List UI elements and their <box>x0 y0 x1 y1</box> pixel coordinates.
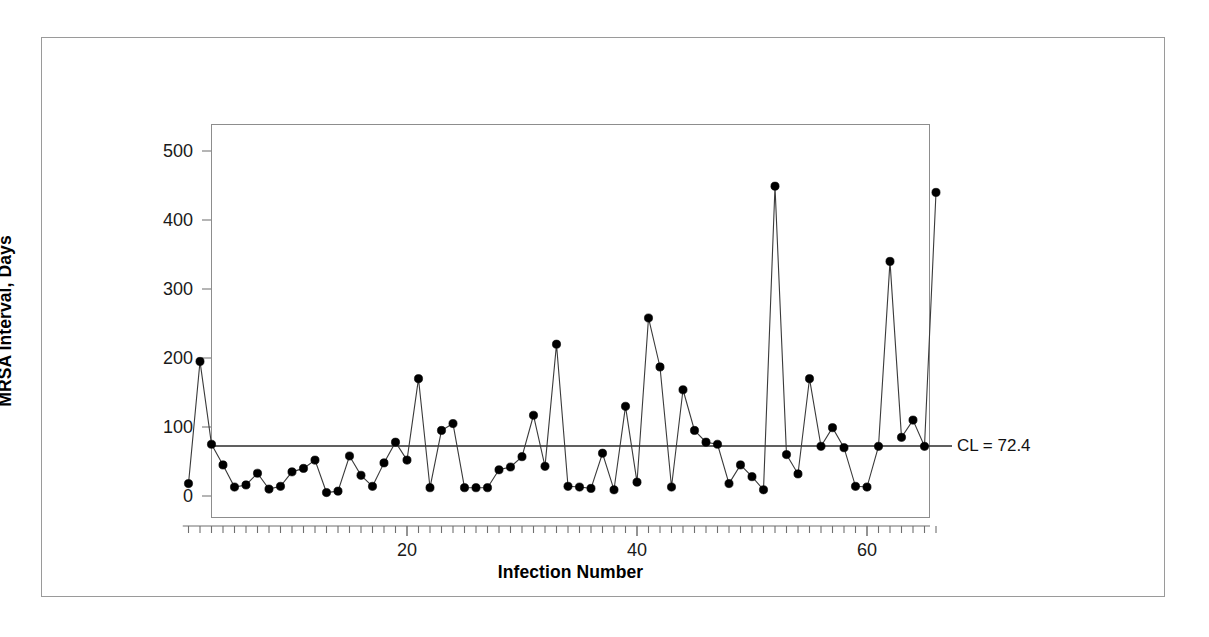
x-axis-tick-marks <box>189 526 937 536</box>
chart-page: MRSA Interval, Days Infection Number 010… <box>0 0 1209 637</box>
chart-canvas <box>0 0 1209 637</box>
series-markers <box>184 182 940 497</box>
